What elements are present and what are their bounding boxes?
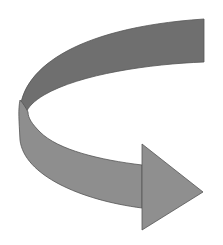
curved-arrow-icon (0, 0, 223, 245)
back-band (20, 19, 204, 113)
arrow-head (142, 144, 203, 230)
front-band (19, 100, 142, 208)
ribbon-arrow-figure (0, 0, 223, 245)
